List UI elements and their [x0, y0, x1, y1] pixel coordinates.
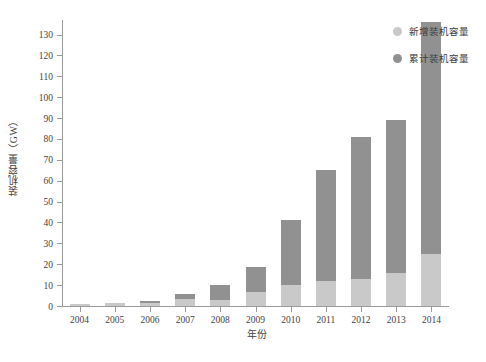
y-tick-label: 130: [39, 30, 53, 40]
y-tick-mark: 70: [57, 160, 62, 161]
bar-segment-added: [105, 303, 125, 306]
bar-segment-cumulative: [386, 120, 406, 272]
x-tick-mark: [115, 307, 116, 312]
y-tick-label: 20: [44, 260, 54, 270]
bar-2008[interactable]: [210, 285, 230, 306]
x-tick-label: 2005: [105, 315, 124, 325]
x-tick-mark: [291, 307, 292, 312]
x-tick-mark: [256, 307, 257, 312]
legend-item-2[interactable]: 累计装机容量: [393, 51, 469, 65]
y-tick-mark: 90: [57, 118, 62, 119]
x-tick-mark: [150, 307, 151, 312]
x-tick-label: 2012: [352, 315, 371, 325]
x-tick-label: 2006: [140, 315, 159, 325]
x-axis-title: 年份: [62, 326, 452, 341]
legend-label: 累计装机容量: [409, 51, 469, 65]
bar-segment-cumulative: [281, 220, 301, 285]
bar-segment-cumulative: [210, 285, 230, 299]
y-tick-mark: 110: [57, 76, 62, 77]
y-tick-mark: 60: [57, 181, 62, 182]
bar-segment-added: [140, 303, 160, 306]
y-tick-label: 90: [44, 114, 54, 124]
y-tick-label: 40: [44, 218, 54, 228]
bar-segment-added: [70, 304, 90, 306]
bar-2010[interactable]: [281, 220, 301, 306]
y-tick-mark: 100: [57, 97, 62, 98]
x-tick-mark: [396, 307, 397, 312]
bar-segment-added: [351, 279, 371, 306]
y-tick-label: 10: [44, 281, 54, 291]
x-tick-mark: [361, 307, 362, 312]
bar-segment-added: [421, 254, 441, 306]
legend-circle-icon: [393, 54, 402, 63]
x-tick-label: 2008: [211, 315, 230, 325]
x-tick-label: 2009: [246, 315, 265, 325]
y-tick-label: 70: [44, 155, 54, 165]
bar-2005[interactable]: [105, 303, 125, 306]
bar-2004[interactable]: [70, 304, 90, 306]
y-tick-mark: 0: [57, 306, 62, 307]
y-tick-mark: 50: [57, 202, 62, 203]
bar-2011[interactable]: [316, 170, 336, 306]
y-tick-label: 110: [39, 72, 53, 82]
x-tick-label: 2010: [281, 315, 300, 325]
bar-segment-cumulative: [316, 170, 336, 281]
bar-2012[interactable]: [351, 137, 371, 306]
bar-segment-added: [316, 281, 336, 306]
x-tick-mark: [185, 307, 186, 312]
legend-circle-icon: [393, 27, 402, 36]
bar-segment-added: [246, 292, 266, 306]
x-tick-label: 2007: [176, 315, 195, 325]
y-tick-label: 0: [48, 302, 53, 312]
y-tick-label: 80: [44, 134, 54, 144]
y-tick-mark: 40: [57, 222, 62, 223]
bar-segment-added: [210, 300, 230, 306]
x-tick-label: 2011: [317, 315, 336, 325]
bar-2006[interactable]: [140, 301, 160, 306]
x-tick-mark: [220, 307, 221, 312]
bar-2007[interactable]: [175, 294, 195, 306]
bar-segment-added: [281, 285, 301, 306]
y-tick-mark: 30: [57, 243, 62, 244]
x-tick-label: 2004: [70, 315, 89, 325]
bar-segment-added: [386, 273, 406, 306]
bar-2009[interactable]: [246, 267, 266, 306]
y-tick-label: 120: [39, 51, 53, 61]
y-tick-label: 50: [44, 197, 54, 207]
y-tick-mark: 130: [57, 35, 62, 36]
bar-segment-added: [175, 299, 195, 306]
y-tick-mark: 120: [57, 55, 62, 56]
y-axis-title: 装机容量（GW）: [0, 0, 26, 310]
y-axis-title-label: 装机容量（GW）: [6, 115, 21, 196]
bar-segment-cumulative: [246, 267, 266, 292]
y-axis-line: [62, 20, 63, 307]
y-tick-label: 60: [44, 176, 54, 186]
legend-item-1[interactable]: 新增装机容量: [393, 24, 469, 38]
x-tick-label: 2013: [387, 315, 406, 325]
y-tick-mark: 20: [57, 264, 62, 265]
x-tick-mark: [80, 307, 81, 312]
chart-legend: 新增装机容量累计装机容量: [393, 24, 469, 65]
legend-label: 新增装机容量: [409, 24, 469, 38]
x-tick-mark: [431, 307, 432, 312]
y-tick-label: 30: [44, 239, 54, 249]
bar-segment-cumulative: [351, 137, 371, 279]
y-tick-mark: 80: [57, 139, 62, 140]
bar-2013[interactable]: [386, 120, 406, 306]
chart-container: 装机容量（GW） 0102030405060708090100110120130…: [0, 0, 486, 362]
x-tick-label: 2014: [422, 315, 441, 325]
y-tick-label: 100: [39, 93, 53, 103]
y-tick-mark: 10: [57, 285, 62, 286]
x-tick-mark: [326, 307, 327, 312]
